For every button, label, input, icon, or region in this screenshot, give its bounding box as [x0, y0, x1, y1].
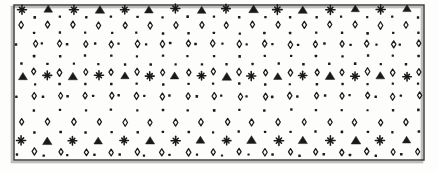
dot-icon: [417, 109, 420, 112]
dot-icon: [196, 95, 199, 98]
dot-icon: [341, 83, 343, 85]
dot-icon: [245, 95, 247, 97]
dot-icon: [348, 94, 350, 96]
dot-icon: [59, 55, 61, 57]
dot-icon: [15, 96, 17, 98]
dot-icon: [186, 15, 189, 18]
dot-icon: [246, 43, 248, 45]
dot-icon: [149, 63, 152, 66]
dot-icon: [137, 131, 139, 133]
dot-icon: [33, 32, 35, 34]
dot-icon: [392, 82, 394, 84]
dot-icon: [169, 42, 172, 45]
dot-icon: [84, 32, 86, 34]
dot-icon: [366, 83, 368, 85]
dot-icon: [187, 83, 189, 85]
dot-icon: [59, 31, 61, 33]
dot-icon: [391, 15, 393, 17]
dot-icon: [367, 54, 369, 56]
dot-icon: [84, 54, 86, 56]
dot-icon: [238, 55, 241, 58]
dot-icon: [220, 94, 222, 96]
dot-icon: [341, 109, 343, 111]
dot-icon: [264, 131, 266, 133]
dot-icon: [41, 42, 43, 44]
dot-icon: [315, 109, 317, 111]
dot-icon: [110, 54, 112, 56]
dot-icon: [212, 82, 214, 84]
dot-icon: [33, 131, 36, 134]
dot-icon: [213, 16, 215, 18]
dot-icon: [66, 43, 69, 46]
dot-icon: [375, 43, 377, 45]
dot-icon: [296, 95, 298, 97]
dot-icon: [298, 155, 300, 157]
dot-icon: [238, 82, 240, 84]
dot-icon: [354, 62, 357, 65]
dot-icon: [302, 63, 305, 66]
dot-icon: [315, 32, 317, 34]
dot-icon: [110, 83, 112, 85]
dot-icon: [289, 131, 291, 133]
dot-icon: [315, 55, 317, 57]
dot-icon: [314, 130, 316, 132]
dot-icon: [366, 32, 369, 35]
dot-icon: [118, 153, 121, 156]
dot-icon: [349, 44, 351, 46]
dot-icon: [58, 83, 61, 86]
dot-icon: [213, 109, 216, 112]
dot-icon: [289, 16, 291, 18]
dot-icon: [110, 15, 112, 17]
dot-icon: [97, 63, 99, 65]
dot-icon: [392, 109, 394, 111]
dot-icon: [110, 108, 112, 110]
dot-icon: [225, 63, 227, 65]
dot-icon: [341, 131, 344, 134]
dot-icon: [263, 32, 266, 35]
dot-icon: [290, 55, 292, 57]
dot-icon: [168, 154, 170, 156]
dot-icon: [136, 55, 138, 57]
dot-icon: [367, 131, 369, 133]
dot-icon: [46, 63, 48, 65]
dot-icon: [66, 95, 69, 98]
dot-icon: [417, 83, 419, 85]
dot-icon: [42, 95, 45, 98]
dot-icon: [42, 154, 44, 156]
dot-icon: [221, 154, 223, 156]
dot-icon: [175, 63, 177, 65]
dot-icon: [340, 16, 342, 18]
dot-icon: [391, 131, 393, 133]
dot-icon: [392, 54, 394, 56]
dot-icon: [251, 63, 253, 65]
dot-icon: [264, 83, 267, 86]
dot-icon: [162, 131, 164, 133]
dot-icon: [33, 16, 36, 19]
dot-icon: [162, 109, 164, 111]
dot-icon: [84, 83, 86, 85]
dot-icon: [289, 32, 291, 34]
dot-icon: [186, 109, 188, 111]
dot-icon: [59, 15, 61, 17]
dot-icon: [417, 55, 419, 57]
dot-icon: [315, 16, 317, 18]
dot-icon: [263, 109, 265, 111]
dot-icon: [117, 94, 119, 96]
dot-icon: [400, 153, 403, 156]
dot-icon: [168, 94, 170, 96]
dot-icon: [187, 32, 189, 34]
dot-icon: [400, 94, 402, 96]
dot-icon: [324, 94, 327, 97]
dot-icon: [124, 63, 126, 65]
dot-icon: [238, 16, 240, 18]
dot-icon: [84, 131, 86, 133]
dot-icon: [136, 109, 138, 111]
dot-icon: [136, 16, 138, 18]
dot-icon: [143, 154, 145, 156]
dot-icon: [399, 43, 401, 45]
dot-icon: [271, 153, 273, 155]
dot-icon: [162, 83, 165, 86]
dot-icon: [328, 62, 330, 64]
dot-icon: [213, 55, 215, 57]
dot-icon: [135, 82, 137, 84]
